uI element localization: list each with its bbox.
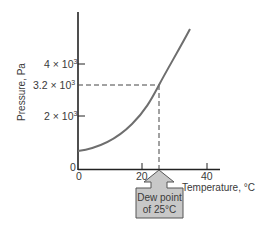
dew-point-label-line1: Dew point — [137, 192, 182, 203]
dew-point-label-line2: of 25°C — [143, 204, 176, 215]
y-tick-label-3200: 3.2 × 103 — [33, 79, 75, 91]
chart: 4 × 103 3.2 × 103 2 × 103 0 0 20 40 Pres… — [0, 0, 263, 225]
y-tick-label-2000: 2 × 103 — [44, 110, 78, 122]
x-tick-label-0: 0 — [76, 170, 82, 182]
y-tick-label-4000: 4 × 103 — [44, 58, 78, 70]
saturation-curve — [78, 29, 190, 151]
y-axis-label: Pressure, Pa — [16, 63, 27, 121]
x-tick-label-40: 40 — [201, 170, 213, 182]
x-axis-label: Temperature, °C — [182, 182, 255, 193]
